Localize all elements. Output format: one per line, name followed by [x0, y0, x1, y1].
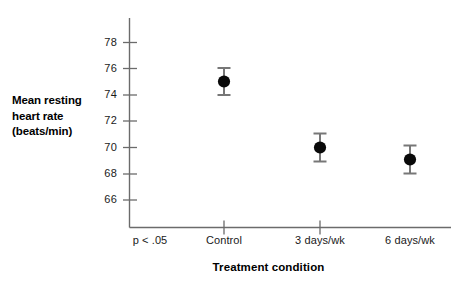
axis-lines	[130, 18, 452, 228]
y-tick-label-76: 76	[93, 62, 117, 74]
y-axis-title-line-2: heart rate	[12, 109, 108, 125]
marker-3-days-wk	[314, 141, 326, 153]
x-axis-title: Treatment condition	[129, 261, 325, 273]
x-tick-label-6-days-wk: 6 days/wk	[373, 234, 447, 246]
data-point-3-days-wk	[314, 134, 327, 162]
marker-control	[218, 75, 230, 87]
x-axis-title-wrap: Treatment condition	[0, 261, 453, 273]
y-axis-title: Mean resting heart rate (beats/min)	[12, 93, 108, 140]
y-tick-label-66: 66	[93, 193, 117, 205]
data-point-control	[218, 68, 231, 95]
x-tick-label-3-days-wk: 3 days/wk	[283, 234, 357, 246]
chart-figure: 78 76 74 72 70 68 66 p < .05 Control 3 d…	[0, 0, 453, 286]
y-tick-label-70: 70	[93, 141, 117, 153]
x-tick-label-p-value: p < .05	[120, 234, 180, 246]
x-tick-label-control: Control	[194, 234, 254, 246]
marker-6-days-wk	[404, 153, 416, 165]
y-axis-title-line-1: Mean resting	[12, 93, 108, 109]
y-axis-title-line-3: (beats/min)	[12, 124, 108, 140]
y-tick-label-78: 78	[93, 36, 117, 48]
data-point-6-days-wk	[404, 146, 417, 174]
y-tick-label-68: 68	[93, 167, 117, 179]
